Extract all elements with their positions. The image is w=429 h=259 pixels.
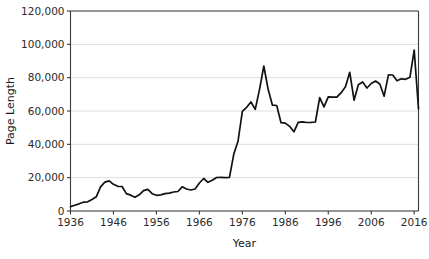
grid-lines bbox=[71, 11, 419, 211]
page-length-series-line bbox=[71, 50, 419, 206]
x-tick-label: 1956 bbox=[143, 216, 170, 228]
x-tick-label: 1936 bbox=[57, 216, 84, 228]
x-tick-label: 1966 bbox=[186, 216, 213, 228]
y-tick-label: 60,000 bbox=[28, 105, 65, 117]
y-tick-labels: 020,00040,00060,00080,000100,000120,000 bbox=[21, 5, 64, 217]
x-tick-label: 1996 bbox=[315, 216, 342, 228]
x-axis-title: Year bbox=[232, 237, 257, 250]
y-tick-label: 120,000 bbox=[21, 5, 64, 17]
y-tick-label: 0 bbox=[58, 205, 65, 217]
line-chart: 020,00040,00060,00080,000100,000120,000 … bbox=[0, 0, 429, 259]
x-tick-label: 2006 bbox=[358, 216, 385, 228]
x-tick-label: 1976 bbox=[229, 216, 256, 228]
y-tick-label: 20,000 bbox=[28, 171, 65, 183]
x-tick-labels: 193619461956196619761986199620062016 bbox=[57, 216, 428, 228]
chart-figure: 020,00040,00060,00080,000100,000120,000 … bbox=[0, 0, 429, 259]
y-axis-title: Page Length bbox=[4, 77, 17, 145]
y-tick-label: 80,000 bbox=[28, 71, 65, 83]
x-tick-label: 2016 bbox=[401, 216, 428, 228]
y-tick-label: 40,000 bbox=[28, 138, 65, 150]
x-tick-label: 1946 bbox=[100, 216, 127, 228]
y-tick-label: 100,000 bbox=[21, 38, 64, 50]
x-tick-label: 1986 bbox=[272, 216, 299, 228]
